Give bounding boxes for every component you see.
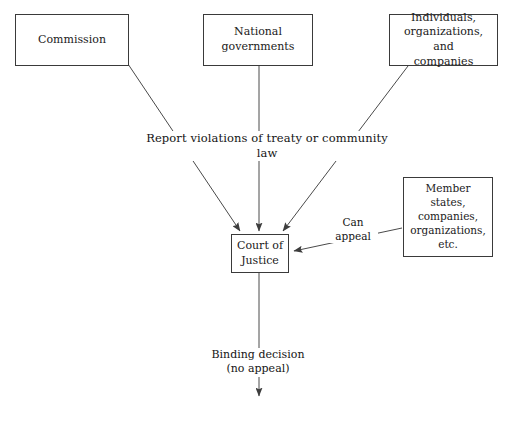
node-national-governments[interactable]: National governments [203,14,313,66]
node-national-governments-label: National governments [219,25,298,54]
edge-label-can-appeal: Can appeal [328,216,378,243]
node-commission[interactable]: Commission [15,14,129,66]
edge-label-report-violations: Report violations of treaty or community… [139,131,395,161]
node-member-states-companies-organizations-label: Member states, companies, organizations,… [407,182,489,251]
node-individuals-organizations-companies[interactable]: Individuals, organizations, and companie… [389,14,498,66]
node-court-of-justice[interactable]: Court of Justice [231,234,289,273]
diagram-canvas: Commission National governments Individu… [0,0,512,427]
edge-label-binding-decision: Binding decision (no appeal) [205,348,311,377]
node-court-of-justice-label: Court of Justice [234,239,286,268]
node-individuals-organizations-companies-label: Individuals, organizations, and companie… [390,11,497,69]
node-commission-label: Commission [35,33,109,48]
node-member-states-companies-organizations[interactable]: Member states, companies, organizations,… [403,177,493,257]
